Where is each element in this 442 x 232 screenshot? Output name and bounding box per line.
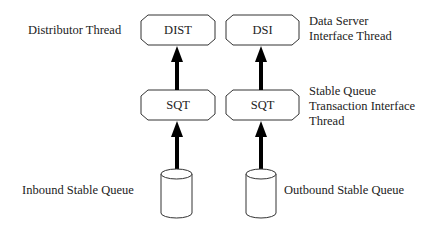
sqt-left-node-label: SQT — [141, 98, 215, 113]
sqt-annotation-line2: Transaction Interface — [309, 99, 415, 113]
dsi-node-label: DSI — [226, 23, 299, 38]
arrow-sqt-to-dsi — [255, 46, 267, 90]
inbound-queue-annotation: Inbound Stable Queue — [22, 183, 134, 197]
inbound-queue-cylinder-icon — [161, 169, 192, 218]
distributor-thread-annotation: Distributor Thread — [28, 23, 121, 37]
sqt-annotation-line1: Stable Queue — [309, 84, 376, 98]
arrow-outbound-to-sqt — [255, 121, 267, 169]
arrow-sqt-to-dist — [171, 46, 183, 90]
sqt-annotation-line3: Thread — [309, 114, 344, 128]
dsi-annotation-line2: Interface Thread — [309, 29, 392, 43]
arrow-inbound-to-sqt — [171, 121, 183, 169]
outbound-queue-cylinder-icon — [246, 169, 276, 218]
outbound-queue-annotation: Outbound Stable Queue — [284, 183, 404, 197]
dist-node-label: DIST — [141, 23, 215, 38]
sqt-right-node-label: SQT — [226, 98, 299, 113]
dsi-annotation-line1: Data Server — [309, 14, 368, 28]
